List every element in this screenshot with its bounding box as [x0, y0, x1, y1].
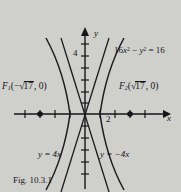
equation-minus: − — [130, 45, 140, 55]
focus-label-right: F2(√17, 0) — [119, 81, 158, 92]
focus-label-left: F1(−√17, 0) — [2, 81, 47, 92]
focus-left-rest: , 0) — [34, 81, 47, 91]
focus-right-rest: , 0) — [146, 81, 159, 91]
focus-right-radicand: 17 — [135, 81, 146, 92]
equation-coefficient: 16 — [114, 45, 123, 55]
y-axis-tick-label-4: 4 — [73, 49, 78, 58]
figure-caption: Fig. 10.3.1 — [13, 176, 52, 185]
y-axis-label: y — [94, 29, 98, 38]
focus-left-radicand: 17 — [24, 81, 35, 92]
equation-label: 16x2 − y2 = 16 — [114, 46, 165, 55]
focus-point-right — [127, 111, 133, 117]
x-axis-tick-label-2: 2 — [106, 115, 111, 124]
x-axis-label: x — [167, 114, 171, 123]
focus-point-left — [37, 111, 43, 117]
equation-rhs: = 16 — [146, 45, 165, 55]
focus-left-open-paren: (− — [11, 81, 20, 91]
hyperbola-figure — [0, 0, 181, 192]
asymptote-label-right: y = −4x — [100, 150, 129, 159]
asymptote-label-left: y = 4x — [38, 150, 61, 159]
